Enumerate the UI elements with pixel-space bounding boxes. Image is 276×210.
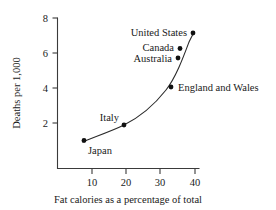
point-label-italy: Italy xyxy=(100,112,120,123)
data-point-canada[interactable] xyxy=(178,46,183,51)
fitted-curve xyxy=(82,34,193,142)
point-label-australia: Australia xyxy=(134,53,173,64)
scatter-plot: 8 6 4 2 10 20 30 40 Japan Italy England … xyxy=(0,0,276,210)
xtick-label-10: 10 xyxy=(87,177,98,188)
point-label-canada: Canada xyxy=(143,42,175,53)
axis-lines xyxy=(58,18,200,169)
chart-figure: 8 6 4 2 10 20 30 40 Japan Italy England … xyxy=(0,0,276,210)
xtick-label-20: 20 xyxy=(121,177,132,188)
data-point-england-and-wales[interactable] xyxy=(169,85,174,90)
data-point-japan[interactable] xyxy=(82,138,87,143)
ytick-label-6: 6 xyxy=(43,48,48,59)
ytick-label-2: 2 xyxy=(43,118,48,129)
point-label-united-states: United States xyxy=(131,27,187,38)
data-point-australia[interactable] xyxy=(176,56,181,61)
ytick-label-4: 4 xyxy=(43,83,49,94)
x-axis-title: Fat calories as a percentage of total xyxy=(54,194,202,205)
y-axis-title: Deaths per 1,000 xyxy=(11,57,22,128)
xtick-label-30: 30 xyxy=(155,177,166,188)
point-label-japan: Japan xyxy=(88,145,113,156)
data-point-united-states[interactable] xyxy=(191,31,196,36)
ytick-label-8: 8 xyxy=(43,13,48,24)
point-label-england-and-wales: England and Wales xyxy=(178,82,259,93)
xtick-label-40: 40 xyxy=(190,177,201,188)
data-point-italy[interactable] xyxy=(122,123,127,128)
